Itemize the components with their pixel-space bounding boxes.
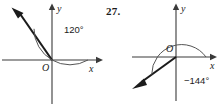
x-axis-label: x (209, 60, 215, 71)
origin-label: O (166, 43, 173, 54)
x-axis-arrowhead (96, 57, 103, 63)
origin-label: O (42, 62, 49, 73)
y-axis-label: y (56, 3, 62, 14)
angle-diagram-120: O x y 120° (0, 0, 108, 109)
problem-number-label: 27. (106, 6, 121, 17)
y-axis-label: y (180, 3, 186, 14)
angle-arc (152, 45, 206, 75)
angle-minus-144-canvas: O x y −144° (128, 0, 223, 109)
x-axis-label: x (88, 63, 94, 74)
terminal-ray (21, 15, 53, 61)
angle-measure-label: −144° (184, 75, 209, 86)
terminal-ray (142, 57, 177, 82)
angle-measure-label: 120° (64, 24, 84, 35)
y-axis-arrowhead (173, 4, 179, 11)
angle-diagram-minus-144: O x y −144° (128, 0, 223, 109)
figure-page: O x y 120° 27. O x y −144° (0, 0, 223, 109)
y-axis-arrowhead (49, 4, 55, 11)
angle-120-canvas: O x y 120° (0, 0, 108, 109)
